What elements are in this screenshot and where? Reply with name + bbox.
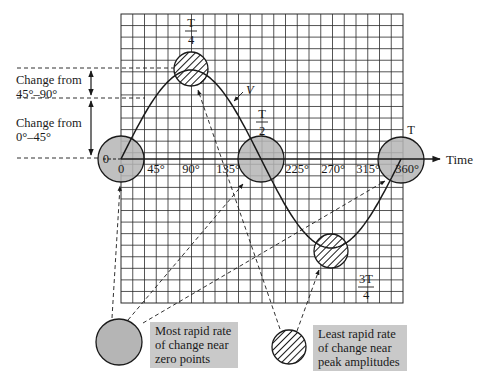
- tick-90: 90°: [182, 162, 200, 176]
- legend-label-least-rapid: Least rapid rate of change near peak amp…: [313, 325, 407, 371]
- svg-text:3T: 3T: [359, 272, 373, 286]
- svg-text:T: T: [258, 107, 266, 121]
- tick-0: 0: [118, 162, 124, 176]
- annotation-change-0-45: Change from 0°–45°: [16, 116, 82, 144]
- legend-label-most-rapid: Most rapid rate of change near zero poin…: [150, 322, 238, 368]
- svg-text:4: 4: [188, 33, 195, 47]
- tick-360: 360°: [395, 162, 419, 176]
- svg-text:4: 4: [363, 288, 370, 302]
- legend-hatched-circle: [272, 330, 306, 364]
- period-mark-full: T: [407, 123, 415, 137]
- peak-circle-90: [174, 52, 208, 86]
- time-axis-label: Time: [446, 152, 473, 167]
- tick-135: 135°: [216, 162, 240, 176]
- period-mark-quarter: T 4: [185, 16, 197, 47]
- legend-solid-circle: [96, 319, 142, 365]
- tick-270: 270°: [321, 162, 345, 176]
- tick-225: 225°: [285, 162, 309, 176]
- sine-wave-diagram: 0 0 45° 90° 135° 225° 270° 315° 360° Tim…: [0, 0, 485, 374]
- tick-315: 315°: [356, 162, 380, 176]
- tick-45: 45°: [147, 162, 165, 176]
- origin-value-label: 0: [103, 152, 109, 166]
- period-mark-three-quarter: 3T 4: [358, 272, 374, 302]
- annotation-change-45-90: Change from 45°–90°: [16, 73, 82, 101]
- svg-text:2: 2: [259, 124, 265, 138]
- peak-circle-270: [314, 234, 348, 268]
- svg-text:T: T: [187, 16, 195, 30]
